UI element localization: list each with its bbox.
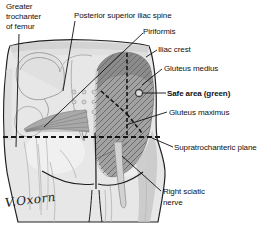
label-posterior-superior-iliac-spine: Posterior superior iliac spine [74, 11, 172, 21]
label-supratrochanteric-plane: Supratrochanteric plane [174, 143, 257, 153]
anatomy-diagram: Greater trochanter of femur Posterior su… [0, 0, 271, 225]
label-gluteus-medius: Gluteus medius [164, 64, 218, 74]
label-safe-area: Safe area (green) [167, 89, 230, 99]
label-greater-trochanter: Greater trochanter of femur [6, 2, 41, 32]
label-iliac-crest: Iliac crest [158, 45, 191, 55]
label-right-sciatic-nerve: Right sciatic nerve [163, 186, 205, 208]
label-piriformis: Piriformis [143, 27, 175, 37]
label-gluteus-maximus: Gluteus maximus [169, 108, 229, 118]
safe-area-marker [136, 90, 143, 97]
